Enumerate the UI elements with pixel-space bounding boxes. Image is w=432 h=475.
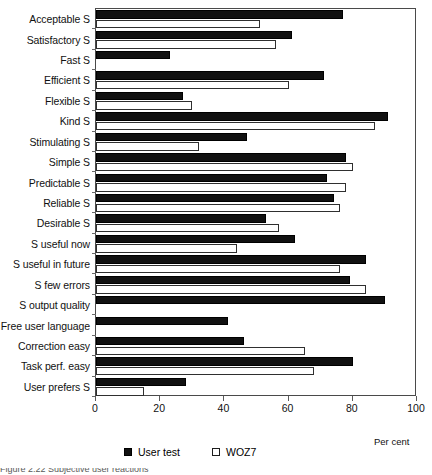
bar-user-test: [96, 10, 343, 18]
bar-row: S output quality: [96, 295, 415, 315]
x-axis-tick-label: 40: [218, 402, 230, 414]
bar-woz7: [96, 20, 260, 28]
bar-woz7: [96, 204, 340, 212]
bar-woz7: [96, 81, 289, 89]
bar-user-test: [96, 357, 353, 365]
hollow-square-icon: [212, 448, 220, 456]
figure-caption: Figure 2.22 Subjective user reactions: [0, 468, 300, 475]
x-axis-tick: [223, 396, 224, 401]
category-label: Free user language: [1, 320, 90, 332]
bar-row: Simple S: [96, 152, 415, 172]
bar-user-test: [96, 194, 334, 202]
bar-row: Efficient S: [96, 70, 415, 90]
category-label: Simple S: [49, 156, 90, 168]
bar-row: Satisfactory S: [96, 29, 415, 49]
bar-rows: Acceptable SSatisfactory SFast SEfficien…: [96, 9, 415, 395]
bar-user-test: [96, 214, 266, 222]
bar-woz7: [96, 40, 276, 48]
x-axis-tick-label: 0: [92, 402, 98, 414]
bar-row: Kind S: [96, 111, 415, 131]
legend-label-woz7: WOZ7: [226, 446, 256, 458]
category-label: Correction easy: [18, 340, 90, 352]
category-label: Acceptable S: [29, 13, 90, 25]
bar-row: Desirable S: [96, 213, 415, 233]
legend: User test WOZ7: [124, 446, 256, 458]
bar-row: Fast S: [96, 50, 415, 70]
bar-row: Predictable S: [96, 172, 415, 192]
legend-item-user-test: User test: [124, 446, 180, 458]
bar-row: S few errors: [96, 274, 415, 294]
category-label: Fast S: [60, 54, 90, 66]
x-axis-tick: [416, 396, 417, 401]
bar-woz7: [96, 265, 340, 273]
bar-woz7: [96, 244, 237, 252]
bar-user-test: [96, 153, 346, 161]
filled-square-icon: [124, 448, 132, 456]
x-axis-tick-label: 60: [282, 402, 294, 414]
bar-user-test: [96, 276, 350, 284]
bar-row: User prefers S: [96, 377, 415, 397]
category-label: Predictable S: [29, 177, 90, 189]
x-axis-tick: [95, 396, 96, 401]
x-axis-tick-label: 100: [407, 402, 425, 414]
bar-row: Free user language: [96, 315, 415, 335]
plot-area: Acceptable SSatisfactory SFast SEfficien…: [95, 8, 416, 396]
bar-user-test: [96, 133, 247, 141]
category-label: Satisfactory S: [27, 34, 90, 46]
figure-subjective-user-reactions: Acceptable SSatisfactory SFast SEfficien…: [0, 0, 432, 475]
category-label: Stimulating S: [29, 136, 90, 148]
x-axis-title: Per cent: [374, 436, 409, 447]
bar-row: S useful now: [96, 234, 415, 254]
x-axis-tick: [288, 396, 289, 401]
category-label: S useful in future: [13, 258, 90, 270]
bar-user-test: [96, 174, 327, 182]
legend-item-woz7: WOZ7: [212, 446, 256, 458]
x-axis-tick: [159, 396, 160, 401]
category-label: Efficient S: [44, 74, 90, 86]
x-axis-tick-label: 20: [153, 402, 165, 414]
bar-row: Stimulating S: [96, 132, 415, 152]
bar-woz7: [96, 183, 346, 191]
bar-user-test: [96, 317, 228, 325]
bar-user-test: [96, 112, 388, 120]
category-label: Kind S: [60, 115, 90, 127]
bar-user-test: [96, 51, 170, 59]
x-axis: 020406080100: [95, 396, 416, 426]
category-label: Task perf. easy: [21, 360, 90, 372]
bar-woz7: [96, 101, 192, 109]
category-label: User prefers S: [24, 381, 90, 393]
x-axis-tick: [352, 396, 353, 401]
bar-woz7: [96, 347, 305, 355]
bar-row: Flexible S: [96, 91, 415, 111]
bar-user-test: [96, 31, 292, 39]
bar-row: Acceptable S: [96, 9, 415, 29]
bar-user-test: [96, 235, 295, 243]
bar-woz7: [96, 122, 375, 130]
bar-woz7: [96, 387, 144, 395]
bar-user-test: [96, 71, 324, 79]
category-label: Desirable S: [37, 217, 90, 229]
bar-row: S useful in future: [96, 254, 415, 274]
bar-user-test: [96, 255, 366, 263]
bar-row: Correction easy: [96, 336, 415, 356]
figure-caption-text: Figure 2.22 Subjective user reactions: [0, 468, 300, 474]
category-label: S useful now: [31, 238, 90, 250]
bar-user-test: [96, 337, 244, 345]
bar-woz7: [96, 163, 353, 171]
category-label: Reliable S: [43, 197, 90, 209]
bar-row: Reliable S: [96, 193, 415, 213]
bar-woz7: [96, 224, 279, 232]
x-axis-tick-label: 80: [346, 402, 358, 414]
category-label: S output quality: [19, 299, 90, 311]
bar-woz7: [96, 285, 366, 293]
bar-user-test: [96, 92, 183, 100]
bar-woz7: [96, 367, 314, 375]
bar-woz7: [96, 142, 199, 150]
category-label: Flexible S: [45, 95, 90, 107]
bar-user-test: [96, 296, 385, 304]
bar-row: Task perf. easy: [96, 356, 415, 376]
category-label: S few errors: [35, 279, 90, 291]
legend-label-user-test: User test: [138, 446, 180, 458]
bar-user-test: [96, 378, 186, 386]
